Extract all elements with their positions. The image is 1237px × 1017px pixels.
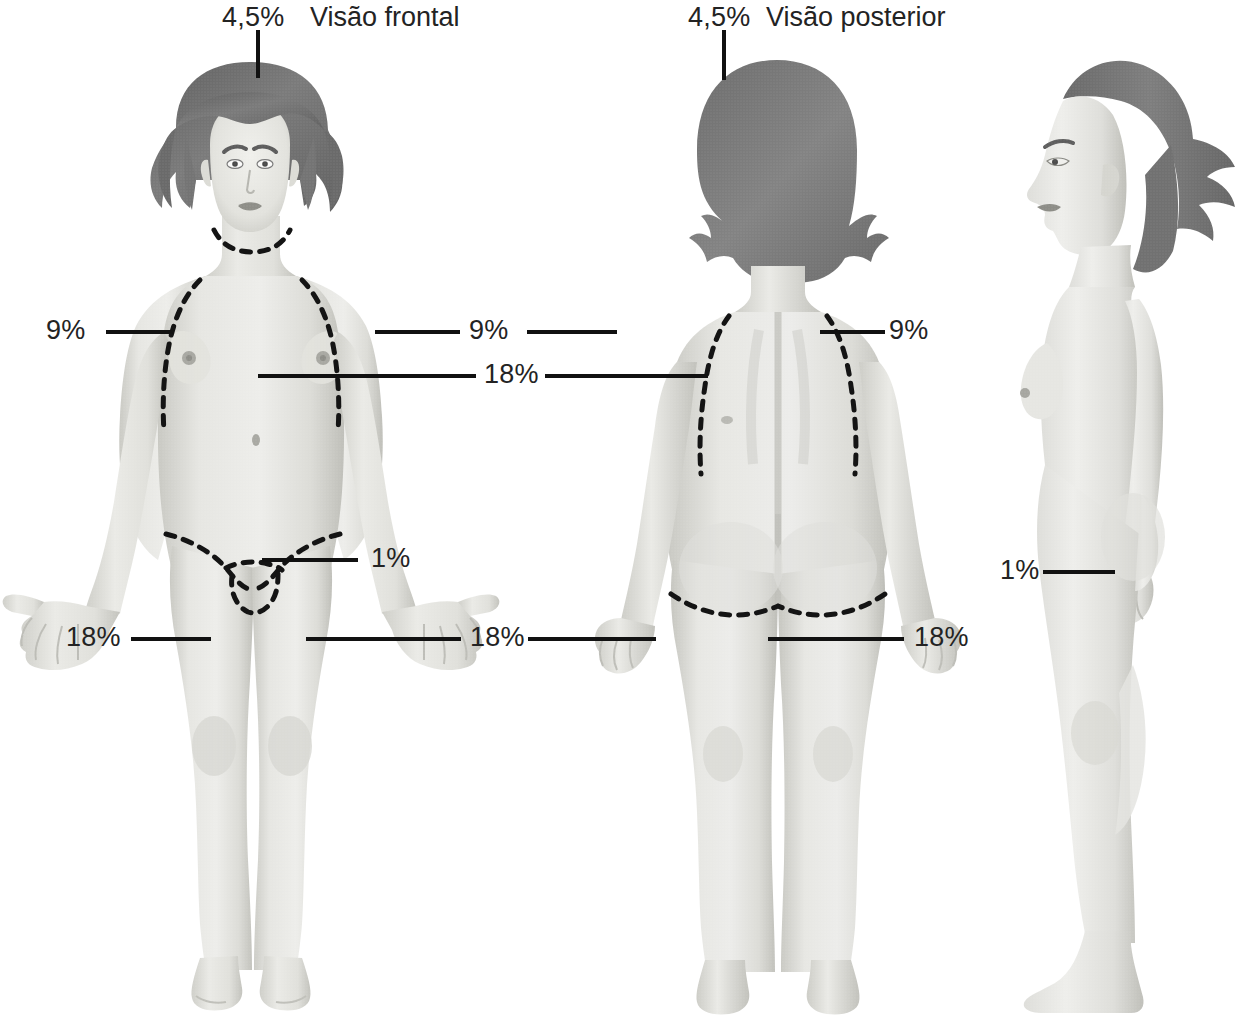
label-arm-shared-middle: 9% (469, 317, 508, 344)
leader-arm-back-left (527, 330, 617, 334)
leader-arm-front-right (375, 330, 460, 334)
leader-leg-front-right (306, 637, 461, 641)
leader-trunk-back (545, 374, 708, 378)
leader-leg-front-left (131, 637, 211, 641)
label-head-front: 4,5% (222, 4, 284, 31)
leader-head-back (722, 30, 726, 80)
lateral-body-figure (985, 25, 1237, 1017)
leader-genital-front (262, 558, 358, 562)
leader-trunk-front (258, 374, 476, 378)
frontal-body-figure (0, 40, 510, 1017)
label-leg-back-right: 18% (914, 624, 969, 651)
leader-arm-front-left (106, 330, 174, 334)
label-arm-back-right: 9% (889, 317, 928, 344)
label-leg-shared-middle: 18% (470, 624, 525, 651)
label-leg-front-left: 18% (66, 624, 121, 651)
leader-arm-back-right (820, 330, 885, 334)
label-trunk-shared: 18% (484, 361, 539, 388)
leader-leg-back-right (768, 637, 904, 641)
label-hand-lateral: 1% (1000, 557, 1039, 584)
rule-of-nines-diagram: 4,5% Visão frontal 4,5% Visão posterior … (0, 0, 1237, 1017)
label-genital-front: 1% (371, 545, 410, 572)
label-arm-front-left: 9% (46, 317, 85, 344)
posterior-body-figure (545, 40, 1015, 1017)
leader-hand-lateral (1043, 570, 1115, 574)
caption-frontal: Visão frontal (310, 4, 460, 31)
leader-head-front (256, 30, 260, 78)
caption-posterior: Visão posterior (766, 4, 946, 31)
label-head-back: 4,5% (688, 4, 750, 31)
leader-leg-back-left (528, 637, 656, 641)
